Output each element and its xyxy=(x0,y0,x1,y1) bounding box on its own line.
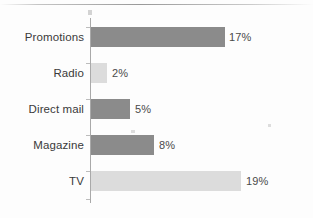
axis-tick xyxy=(86,199,90,200)
bar-magazine[interactable] xyxy=(91,135,154,155)
bar-row[interactable]: Radio 2% xyxy=(0,61,313,85)
bar-row[interactable]: Magazine 8% xyxy=(0,133,313,157)
category-label: Radio xyxy=(53,67,84,79)
bar-value-label: 5% xyxy=(135,103,151,115)
category-label: Magazine xyxy=(33,139,84,151)
bar-row[interactable]: TV 19% xyxy=(0,169,313,193)
bar-value-label: 17% xyxy=(229,31,251,43)
bar-radio[interactable] xyxy=(91,63,107,83)
category-label: TV xyxy=(69,175,84,187)
bar-value-label: 8% xyxy=(159,139,175,151)
plot-area: Promotions 17% Radio 2% Direct mail 5% M… xyxy=(0,0,313,218)
bar-row[interactable]: Promotions 17% xyxy=(0,25,313,49)
bar-value-label: 2% xyxy=(112,67,128,79)
bar-row[interactable]: Direct mail 5% xyxy=(0,97,313,121)
bar-tv[interactable] xyxy=(91,171,241,191)
category-label: Promotions xyxy=(25,31,84,43)
category-label: Direct mail xyxy=(29,103,84,115)
bar-promotions[interactable] xyxy=(91,27,225,47)
bar-direct-mail[interactable] xyxy=(91,99,130,119)
chart-container: Promotions 17% Radio 2% Direct mail 5% M… xyxy=(0,0,313,218)
bar-value-label: 19% xyxy=(246,175,268,187)
